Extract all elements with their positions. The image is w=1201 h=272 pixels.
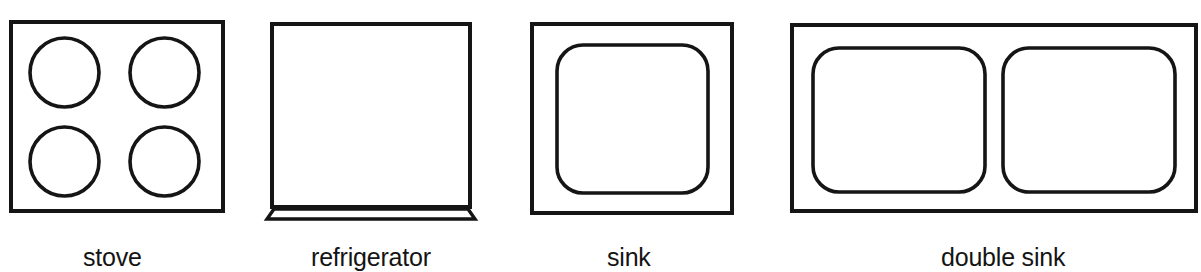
double-sink-basin-right (1003, 48, 1175, 192)
kitchen-fixtures-figure: stove refrigerator sink double sink (0, 0, 1201, 272)
refrigerator-figure (260, 0, 490, 228)
double-sink-label: double sink (941, 243, 1065, 271)
double-sink-basin-left (813, 48, 985, 192)
double-sink-figure (780, 0, 1201, 225)
sink-label: sink (607, 243, 651, 271)
stove-icon (0, 0, 240, 225)
stove-burner-bottom-right (130, 127, 199, 196)
double-sink-counter-outline (792, 25, 1196, 211)
refrigerator-base-plinth (267, 209, 475, 219)
refrigerator-label: refrigerator (311, 243, 431, 271)
stove-figure (0, 0, 240, 225)
refrigerator-icon (260, 0, 490, 228)
sink-figure (520, 0, 750, 225)
sink-icon (520, 0, 750, 225)
stove-burner-top-right (130, 38, 199, 107)
refrigerator-body-outline (272, 24, 470, 207)
double-sink-icon (780, 0, 1201, 225)
stove-label: stove (83, 243, 142, 271)
stove-burner-top-left (30, 38, 99, 107)
stove-burner-bottom-left (30, 127, 99, 196)
sink-basin (557, 45, 708, 193)
